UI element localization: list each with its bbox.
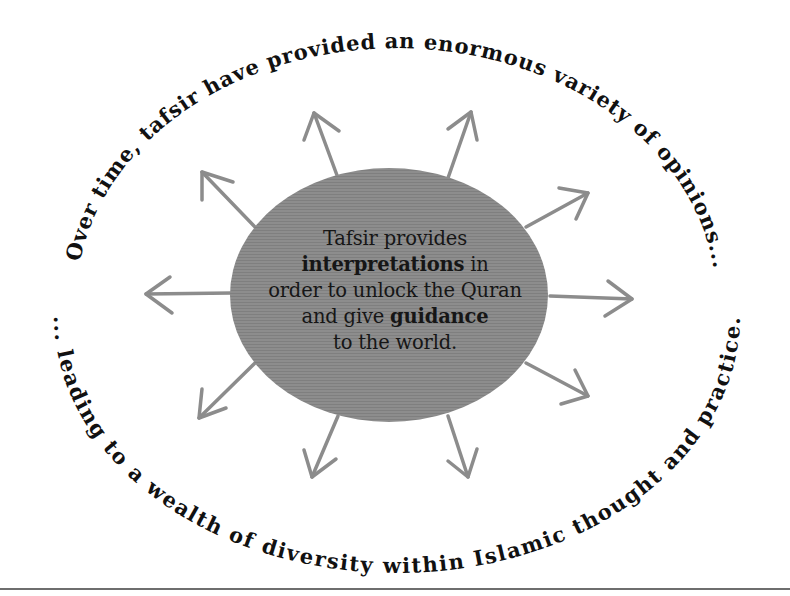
arrow-bottom-left-icon xyxy=(304,416,338,477)
arrow-lower-right-icon xyxy=(526,363,588,404)
arrow-lower-left-icon xyxy=(199,362,256,418)
center-line-4-start: and give xyxy=(302,305,391,328)
center-line-3: order to unlock the Quran xyxy=(230,278,560,304)
arrow-top-left-icon xyxy=(304,113,339,178)
arrow-left-icon xyxy=(146,277,232,313)
center-line-2: interpretations in xyxy=(230,252,560,278)
center-line-5-text: to the world. xyxy=(333,331,457,354)
arrow-upper-left-icon xyxy=(202,172,256,228)
center-line-4: and give guidance xyxy=(230,304,560,330)
arrow-bottom-right-icon xyxy=(448,416,477,477)
center-line-3-text: order to unlock the Quran xyxy=(268,279,522,302)
arrow-top-right-icon xyxy=(448,112,477,178)
keyword-guidance: guidance xyxy=(390,305,488,328)
keyword-interpretations: interpretations xyxy=(301,253,464,276)
bottom-divider xyxy=(0,588,790,590)
central-statement: Tafsir provides interpretations in order… xyxy=(230,226,560,356)
center-line-1-text: Tafsir provides xyxy=(323,227,467,250)
center-line-1: Tafsir provides xyxy=(230,226,560,252)
arrow-upper-right-icon xyxy=(526,188,588,227)
center-line-2-rest: in xyxy=(464,253,488,276)
arrow-right-icon xyxy=(550,281,632,316)
center-line-5: to the world. xyxy=(230,330,560,356)
